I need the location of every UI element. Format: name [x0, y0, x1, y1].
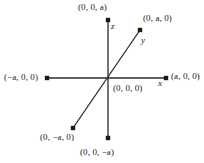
y-axis-line — [73, 30, 140, 128]
point-label-x-negative: (−a, 0, 0) — [4, 73, 38, 82]
axis-label-x: x — [158, 79, 162, 88]
point-label-x-positive: (a, 0, 0) — [171, 72, 200, 81]
point-dot-y-negative — [71, 126, 75, 130]
point-label-y-negative: (0, −a, 0) — [40, 133, 74, 142]
point-dot-x-positive — [164, 76, 168, 80]
coordinate-axes-figure: (0, 0, a) (0, a, 0) (−a, 0, 0) (a, 0, 0)… — [0, 0, 204, 163]
point-label-z-positive: (0, 0, a) — [78, 3, 107, 12]
point-label-z-negative: (0, 0, −a) — [80, 148, 114, 157]
point-dot-x-negative — [45, 76, 49, 80]
point-dot-z-negative — [106, 136, 110, 140]
axis-label-z: z — [111, 22, 115, 31]
point-dot-z-positive — [106, 18, 110, 22]
point-dot-y-positive — [138, 28, 142, 32]
axis-label-y: y — [141, 36, 145, 45]
point-label-y-positive: (0, a, 0) — [143, 14, 172, 23]
point-label-origin: (0, 0, 0) — [113, 84, 142, 93]
